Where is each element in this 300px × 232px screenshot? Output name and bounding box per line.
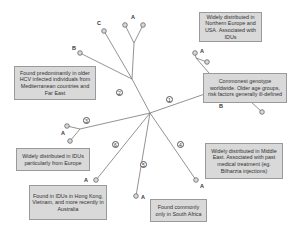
genotype-1a-description: Widely distributed in Northern Europe an… [199,12,262,42]
genotype-number-6: 6 [112,141,119,148]
box-text: Found predominantly in older HCV infecte… [17,70,93,96]
subtype-label-1a: A [200,48,204,54]
genotype-5-description: Found commonly only in South Africa [150,199,207,222]
genotype-number-2: 2 [116,89,123,96]
box-text: Widely distributed in Northern Europe an… [202,14,259,40]
genotype-4-description: Widely distributed in Middle East. Assoc… [205,143,283,179]
genotype-number-5: 5 [140,161,147,168]
box-text: Widely distributed in IDUs particularly … [19,153,87,166]
genotype-1-description: Commonest genotype worldwide. Older age … [203,73,287,103]
genotype-2-description: Found predominantly in older HCV infecte… [14,66,96,100]
box-text: Found commonly only in South Africa [153,204,204,217]
subtype-label-5a: A [141,194,145,200]
subtype-label-6a: A [84,177,88,183]
genotype-number-1: 1 [166,96,173,103]
box-text: Found in IDUs in Hong Kong, Vietnam, and… [32,193,104,213]
subtype-label-4a: A [200,183,204,189]
subtype-label-2a: A [131,14,135,20]
genotype-number-4: 4 [177,141,184,148]
subtype-label-1b: B [219,103,223,109]
genotype-3-description: Widely distributed in IDUs particularly … [16,148,90,171]
subtype-label-2c: C [97,20,101,26]
box-text: Commonest genotype worldwide. Older age … [206,78,284,98]
genotype-number-3: 3 [83,117,90,124]
box-text: Widely distributed in Middle East. Assoc… [208,148,280,174]
genotype-6-description: Found in IDUs in Hong Kong, Vietnam, and… [29,185,107,220]
subtype-label-3a: A [61,130,65,136]
subtype-label-2b: B [72,45,76,51]
